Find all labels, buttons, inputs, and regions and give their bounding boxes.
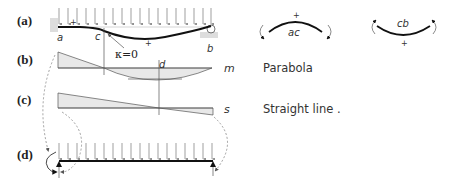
label-s: s [224, 103, 230, 116]
curvature-cb: cb + [372, 18, 436, 48]
sign-ac: + [70, 18, 77, 27]
curvature-ac: + ac [260, 11, 331, 38]
panel-label-b: (b) [17, 52, 33, 67]
rotation-arrow-cb-left [372, 21, 375, 34]
label-d: d [159, 59, 166, 70]
distributed-load-a [59, 8, 211, 24]
moment-arrow-left [46, 152, 56, 172]
sign-cb: + [145, 39, 152, 48]
rotation-arrow-ac-left [260, 25, 263, 38]
fixed-support-a [50, 18, 58, 32]
panel-label-a: (a) [17, 13, 32, 28]
description-parabola: Parabola [263, 61, 313, 75]
description-straight-line: Straight line . [263, 102, 341, 116]
panel-label-d: (d) [17, 147, 33, 162]
sign-cb-legend: + [401, 39, 408, 48]
sign-ac-legend: + [293, 11, 300, 20]
deflected-beam [58, 26, 211, 39]
label-c: c [95, 31, 101, 42]
panel-label-c: (c) [17, 92, 31, 107]
beam-d [46, 143, 216, 178]
label-b: b [207, 43, 213, 54]
distributed-load-d [59, 143, 212, 159]
beam-bending-diagram: (a) (b) (c) (d) [0, 0, 455, 180]
rotation-arrow-cb-right [433, 21, 436, 34]
label-a: a [57, 32, 63, 43]
label-cb: cb [397, 18, 409, 29]
label-m: m [224, 62, 235, 75]
rotation-arrow-ac-right [328, 25, 331, 38]
label-ac: ac [288, 27, 300, 38]
moment-diagram: d m Parabola [58, 52, 313, 90]
shear-diagram: s Straight line . [58, 90, 341, 116]
kappa-zero-label: κ=0 [115, 48, 138, 61]
